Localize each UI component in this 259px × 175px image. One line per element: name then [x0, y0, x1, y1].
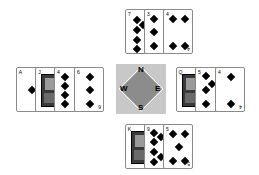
card-rank: 4: [165, 12, 170, 17]
compass-west-label: W: [120, 85, 128, 93]
card-rank: 5: [165, 127, 170, 132]
diamond-pip-icon: [175, 143, 183, 151]
diamond-pip-icon: [169, 42, 177, 50]
diamond-pip-icon: [150, 42, 158, 50]
west-hand: A A J J 4 4 6 6: [16, 67, 104, 112]
east-card-3[interactable]: 4 4: [215, 67, 245, 112]
diamond-pip-icon: [86, 100, 94, 108]
card-rank: 5: [186, 161, 191, 166]
diamond-pip-icon: [150, 15, 158, 23]
card-rank: A: [18, 70, 23, 75]
card-rank: 5: [197, 70, 202, 75]
diamond-pip-icon: [227, 73, 235, 81]
west-card-4[interactable]: 6 6: [74, 67, 104, 112]
diamond-pip-icon: [61, 73, 69, 81]
card-rank: 4: [56, 70, 61, 75]
diamond-pip-icon: [169, 130, 177, 138]
east-hand: Q Q 5 5 4 4: [176, 67, 245, 112]
diamond-pip-icon: [227, 100, 235, 108]
diamond-pip-icon: [86, 86, 94, 94]
card-rank: 4: [238, 104, 243, 109]
compass-south-label: S: [138, 104, 143, 112]
diamond-pip-icon: [202, 72, 210, 80]
diamond-pip-icon: [202, 86, 210, 94]
card-rank: 6: [97, 104, 102, 109]
compass-east-label: E: [155, 85, 160, 93]
diamond-pip-icon: [61, 91, 69, 99]
diamond-pip-icon: [181, 130, 189, 138]
south-hand: K K 9 9 5 5: [125, 124, 193, 169]
south-card-3[interactable]: 5 5: [163, 124, 193, 169]
diamond-pip-icon: [133, 36, 141, 44]
compass-north-label: N: [138, 66, 144, 74]
diamond-pip-icon: [169, 157, 177, 165]
diamond-pip-icon: [169, 15, 177, 23]
diamond-pip-icon: [202, 100, 210, 108]
card-rank: 4: [186, 46, 191, 51]
diamond-pip-icon: [61, 82, 69, 90]
diamond-pip-icon: [150, 138, 158, 146]
card-rank: 3: [146, 12, 151, 17]
diamond-pip-icon: [133, 45, 141, 53]
card-rank: 4: [217, 70, 222, 75]
north-hand: 7 7 3 3 4 4: [125, 9, 193, 54]
diamond-pip-icon: [61, 100, 69, 108]
compass: N W E S: [116, 64, 166, 114]
diamond-pip-icon: [86, 73, 94, 81]
card-rank: 7: [127, 12, 132, 17]
card-rank: 6: [76, 70, 81, 75]
diamond-pip-icon: [181, 15, 189, 23]
north-card-3[interactable]: 4 4: [163, 9, 193, 54]
diamond-pip-icon: [150, 28, 158, 36]
diamond-pip-icon: [150, 158, 158, 166]
